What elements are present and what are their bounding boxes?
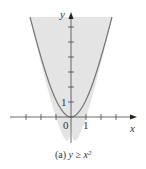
x-tick-label-1: 1 (83, 120, 89, 131)
y-axis-arrow-icon (69, 12, 74, 19)
x-axis-label: x (130, 123, 135, 134)
caption-prefix: (a) (55, 149, 69, 160)
x-axis-arrow-icon (130, 115, 137, 120)
caption-math: y ≥ x² (69, 149, 91, 160)
plot (0, 0, 146, 169)
figure-caption: (a) y ≥ x² (0, 149, 146, 160)
y-tick-label-1: 1 (61, 97, 67, 108)
origin-label: 0 (63, 120, 69, 131)
y-axis-label: y (60, 9, 65, 20)
